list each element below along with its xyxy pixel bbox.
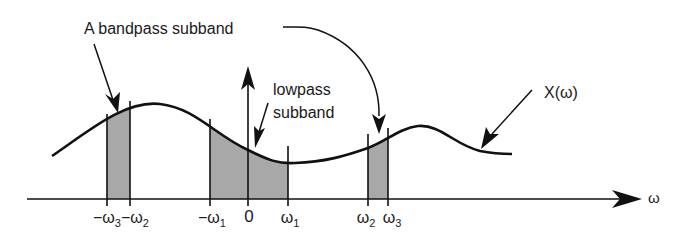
lowpass-pointer [259,103,268,132]
tick-label-w3: ω3 [383,209,402,229]
lowpass-label-line2: subband [273,104,334,121]
subband-diagram: A bandpass subband lowpass subband X(ω) … [0,0,682,239]
bandpass-subband-label: A bandpass subband [84,20,233,37]
bandpass-band-negative [107,60,130,199]
tick-label-w2: ω2 [357,209,376,229]
bandpass-arrowhead-left-icon [105,92,120,113]
tick-label-zero: 0 [244,207,253,226]
omega-axis-label: ω [648,189,660,206]
spectrum-label: X(ω) [544,84,578,101]
spectrum-pointer [492,90,532,134]
bandpass-pointer-left [94,44,113,100]
tick-label-neg-w1: −ω1 [198,209,226,229]
bandpass-pointer-right [283,27,379,116]
tick-label-w1: ω1 [281,209,300,229]
tick-labels: −ω3 −ω2 −ω1 0 ω1 ω2 ω3 [93,207,401,229]
tick-label-neg-w3: −ω3 [93,209,121,229]
lowpass-label-line1: lowpass [273,81,331,98]
tick-label-neg-w2: −ω2 [121,209,149,229]
bandpass-arrowhead-right-icon [372,114,386,134]
